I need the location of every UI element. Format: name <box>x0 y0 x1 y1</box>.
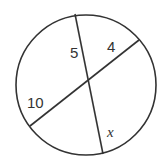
circle <box>16 15 156 155</box>
chord-a <box>75 14 103 154</box>
circle-diagram: 5 4 10 x <box>0 0 164 162</box>
label-segment-right: 4 <box>107 38 115 55</box>
chord-b <box>30 40 139 126</box>
label-segment-top: 5 <box>70 44 78 61</box>
label-segment-bottom: x <box>106 124 114 140</box>
label-segment-left: 10 <box>27 94 44 111</box>
